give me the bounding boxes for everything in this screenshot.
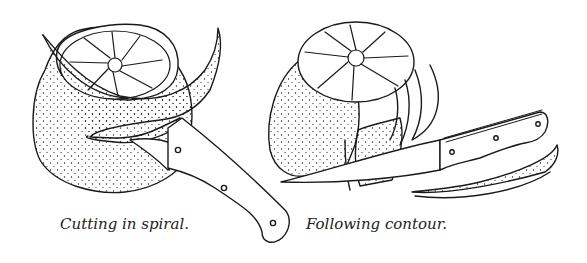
illustration-canvas: Cutting in spiral. Following contour.: [0, 0, 587, 263]
caption-left: Cutting in spiral.: [60, 215, 189, 233]
right-knife-handle: [440, 112, 548, 170]
caption-right: Following contour.: [306, 215, 447, 233]
left-orange-figure: [33, 24, 289, 242]
right-orange-figure: [269, 22, 558, 198]
